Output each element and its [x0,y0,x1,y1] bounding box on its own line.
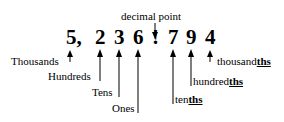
label-tens: Tens [92,86,113,98]
digit-ones: 6 [133,26,144,48]
tens-arrow-icon [116,49,122,97]
label-hundredths-suffix: ths [229,75,243,87]
thousandths-arrow-icon [207,50,213,62]
decimal-point-label: decimal point [121,10,181,22]
label-hundreds: Hundreds [48,70,91,82]
digit-hundredths: 9 [186,26,197,48]
digit-tens: 3 [114,26,125,48]
digit-thousandths: 4 [205,26,216,48]
decimal-point-mark: ! [152,26,159,48]
label-thousands: Thousands [11,55,59,67]
label-tenths: tenths [175,93,203,105]
digit-tenths: 7 [168,26,179,48]
digit-hundreds: 2 [95,26,106,48]
digit-thousands: 5, [66,26,82,48]
ones-arrow-icon [135,49,141,113]
hundreds-arrow-icon [97,49,103,81]
label-ones: Ones [112,102,135,114]
label-thousandths: thousandths [217,55,271,67]
label-hundredths-stem: hundred [193,75,229,87]
label-thousandths-stem: thousand [217,55,257,67]
label-thousandths-suffix: ths [257,55,271,67]
label-tenths-stem: ten [175,93,188,105]
thousands-arrow-icon [67,50,73,62]
label-hundredths: hundredths [193,75,243,87]
label-tenths-suffix: ths [188,93,202,105]
